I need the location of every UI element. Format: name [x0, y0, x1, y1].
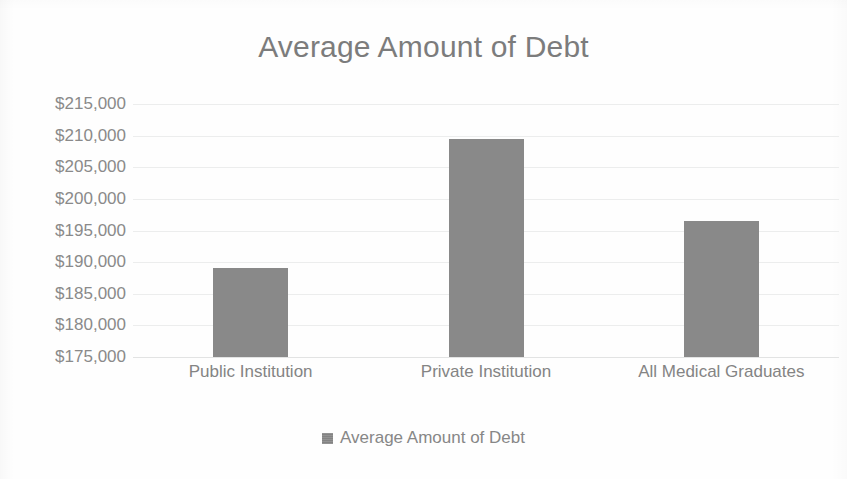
x-axis: Public InstitutionPrivate InstitutionAll…	[133, 362, 839, 394]
y-axis-tick-label: $190,000	[6, 252, 126, 272]
bar	[213, 268, 288, 357]
plot-area	[133, 104, 839, 357]
bar	[449, 139, 524, 357]
chart-legend: Average Amount of Debt	[0, 428, 847, 448]
y-axis-tick-label: $200,000	[6, 189, 126, 209]
y-axis-tick-label: $175,000	[6, 347, 126, 367]
square-marker-icon	[322, 433, 333, 444]
x-axis-tick-label: Public Institution	[189, 362, 313, 382]
chart-title: Average Amount of Debt	[0, 30, 847, 64]
x-axis-tick-label: All Medical Graduates	[638, 362, 804, 382]
legend-item-label: Average Amount of Debt	[340, 428, 525, 448]
bar	[684, 221, 759, 357]
y-axis: $215,000$210,000$205,000$200,000$195,000…	[0, 104, 126, 357]
y-axis-tick-label: $180,000	[6, 315, 126, 335]
x-axis-tick-label: Private Institution	[421, 362, 551, 382]
y-axis-tick-label: $195,000	[6, 221, 126, 241]
axis-baseline	[133, 357, 839, 358]
y-axis-tick-label: $185,000	[6, 284, 126, 304]
chart-container: Average Amount of Debt $215,000$210,000$…	[0, 0, 847, 479]
y-axis-tick-label: $205,000	[6, 157, 126, 177]
y-axis-tick-label: $215,000	[6, 94, 126, 114]
gridline	[133, 104, 839, 105]
gridline	[133, 136, 839, 137]
y-axis-tick-label: $210,000	[6, 126, 126, 146]
